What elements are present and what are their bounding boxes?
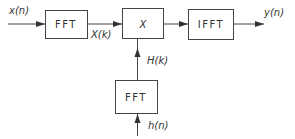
arrowhead-icon <box>179 21 188 27</box>
edge-input-to-fft1 <box>8 21 45 27</box>
block-ifft: IFFT <box>189 10 234 40</box>
edge-h-input-to-fft2 <box>135 114 141 136</box>
edge-fft1-to-mult <box>88 21 122 27</box>
arrowhead-icon <box>36 21 45 27</box>
signal-label-y-n: y(n) <box>263 7 284 18</box>
block-fft2: FFT <box>116 81 158 114</box>
edge-fft2-to-mult <box>135 39 141 80</box>
block-fft1: FFT <box>46 11 88 39</box>
signal-label-H-k: H(k) <box>147 55 168 66</box>
signal-label-h-n: h(n) <box>148 120 168 131</box>
edge-ifft-to-output <box>234 21 264 27</box>
signal-label-X-k: X(k) <box>90 29 111 40</box>
edge-mult-to-ifft <box>164 21 188 27</box>
block-multiplier: X <box>123 9 164 39</box>
block-ifft-label: IFFT <box>198 19 224 30</box>
arrowhead-icon <box>135 114 141 123</box>
block-fft1-label: FFT <box>55 19 77 30</box>
arrowhead-icon <box>255 21 264 27</box>
fft-convolution-diagram: x(n) FFT X(k) X IFFT y(n) H(k) FFT <box>0 0 295 139</box>
arrowhead-icon <box>113 21 122 27</box>
signal-label-x-n: x(n) <box>8 5 29 16</box>
arrowhead-icon <box>135 48 141 57</box>
block-multiplier-label: X <box>139 19 148 30</box>
block-fft2-label: FFT <box>125 92 147 103</box>
